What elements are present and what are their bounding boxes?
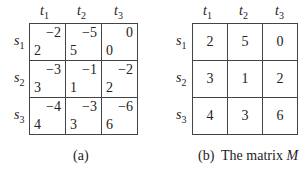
grid-cell: 00 [102,24,138,61]
col-label-t2: t2 [77,4,86,23]
grid-cell: 3 [193,61,228,98]
cell-upper-value: −2 [46,26,61,40]
cell-lower-value: 5 [70,44,77,58]
row-label-s2: s2 [176,71,186,90]
cell-lower-value: 6 [106,118,113,132]
cell-value: 5 [228,35,262,49]
grid-row: 3 1 2 [193,61,298,98]
grid-cell: 6 [263,98,298,135]
grid-row: 4 3 6 [193,98,298,135]
cell-value: 2 [193,35,227,49]
grid-cell: −66 [102,98,138,135]
cell-upper-value: −3 [82,100,97,114]
grid-cell: −55 [66,24,102,61]
cell-lower-value: 3 [34,81,41,95]
row-label-s3: s3 [14,108,24,127]
cell-upper-value: −5 [82,26,97,40]
grid-cell: 5 [228,24,263,61]
cell-lower-value: 1 [70,81,77,95]
grid-cell: 2 [263,61,298,98]
cell-upper-value: −6 [118,100,133,114]
payoff-grid-a: −22 −55 00 −33 −11 −22 −44 −33 −66 [29,23,138,135]
row-label-s1: s1 [14,34,24,53]
grid-cell: −22 [102,61,138,98]
grid-cell: −33 [30,61,66,98]
col-label-t2: t2 [239,4,248,23]
cell-upper-value: 0 [126,26,133,40]
cell-lower-value: 2 [34,44,41,58]
row-label-s1: s1 [176,34,186,53]
col-label-t1: t1 [40,4,49,23]
cell-lower-value: 0 [106,44,113,58]
grid-cell: −22 [30,24,66,61]
cell-value: 2 [263,72,297,86]
grid-row: −22 −55 00 [30,24,138,61]
cell-upper-value: −3 [46,63,61,77]
caption-b: (b) The matrix M [198,148,298,164]
col-label-t3: t3 [114,4,123,23]
grid-cell: −33 [66,98,102,135]
cell-value: 0 [263,35,297,49]
grid-row: −44 −33 −66 [30,98,138,135]
col-label-t3: t3 [275,4,284,23]
grid-row: 2 5 0 [193,24,298,61]
grid-cell: 3 [228,98,263,135]
cell-lower-value: 4 [34,118,41,132]
matrix-m-grid: 2 5 0 3 1 2 4 3 6 [192,23,298,135]
cell-value: 4 [193,109,227,123]
grid-row: −33 −11 −22 [30,61,138,98]
cell-value: 1 [228,72,262,86]
grid-cell: 4 [193,98,228,135]
grid-cell: −11 [66,61,102,98]
grid-cell: 1 [228,61,263,98]
cell-value: 3 [228,109,262,123]
cell-upper-value: −2 [118,63,133,77]
cell-lower-value: 2 [106,81,113,95]
grid-cell: 0 [263,24,298,61]
col-label-t1: t1 [203,4,212,23]
caption-a: (a) [73,148,89,164]
row-label-s3: s3 [176,108,186,127]
cell-value: 6 [263,109,297,123]
cell-value: 3 [193,72,227,86]
cell-upper-value: −1 [82,63,97,77]
row-label-s2: s2 [14,71,24,90]
grid-cell: 2 [193,24,228,61]
cell-upper-value: −4 [46,100,61,114]
cell-lower-value: 3 [70,118,77,132]
grid-cell: −44 [30,98,66,135]
